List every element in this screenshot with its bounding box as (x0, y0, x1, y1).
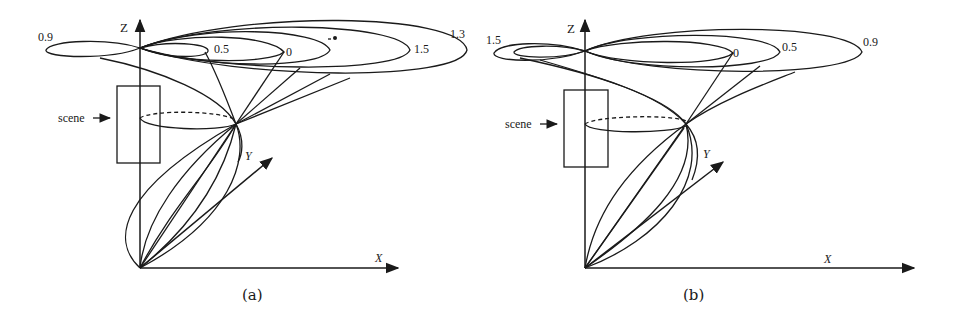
y-label: Y (245, 149, 253, 163)
lobe-0.5 (140, 44, 208, 57)
lobe-label: 0.5 (214, 42, 229, 56)
lobe-0 (585, 41, 733, 62)
figure: scene Z Y X 0.9 0.5 0 1.5 1.3 (a) (0, 0, 956, 321)
lobe-label: 0.9 (863, 35, 878, 49)
rays-upper (520, 53, 795, 124)
z-label: Z (120, 20, 128, 35)
scene-box (564, 90, 608, 167)
y-label: Y (703, 147, 711, 161)
scene-ellipse-back (140, 112, 236, 120)
lobe-label: 1.3 (450, 27, 465, 41)
scene-label: scene (58, 111, 85, 125)
scene-label: scene (505, 117, 532, 131)
x-label: X (374, 251, 383, 265)
lobe-label: 0.5 (782, 40, 797, 54)
lobe-label: 0.9 (38, 30, 53, 44)
rays-lower (585, 124, 697, 268)
caption-b: (b) (683, 286, 704, 304)
scene-ellipse-front (585, 124, 686, 132)
z-label: Z (567, 21, 575, 36)
lobe-mid (140, 32, 330, 64)
lobe-0.9 (46, 41, 140, 56)
y-axis (585, 162, 723, 268)
lobe-label: 1.5 (414, 42, 429, 56)
marker-dot (333, 36, 337, 40)
panel-b: scene Z Y X 1.5 0 0.5 0.9 (b) (486, 20, 914, 304)
rays-lower (126, 124, 242, 268)
lobe-label: 0 (733, 46, 739, 60)
top-lobes (46, 20, 467, 73)
x-label: X (823, 252, 832, 266)
scene-ellipse-front (140, 118, 236, 129)
lobe-label: 1.5 (486, 33, 501, 47)
scene-ellipse-back (585, 117, 686, 124)
panel-a: scene Z Y X 0.9 0.5 0 1.5 1.3 (a) (38, 20, 467, 304)
lobe-label: 0 (286, 45, 292, 59)
caption-a: (a) (242, 286, 263, 304)
